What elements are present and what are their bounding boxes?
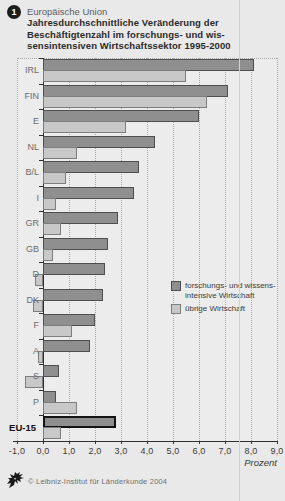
category-label-GB: GB	[0, 244, 39, 254]
x-axis-tick	[95, 441, 96, 444]
legend: forschungs- und wissens- intensive Wirts…	[171, 281, 281, 314]
bar-F-other	[43, 325, 72, 337]
atlas-figure: 1 Europäische Union Jahresdurchschnittli…	[0, 0, 285, 501]
category-label-IRL: IRL	[0, 65, 39, 75]
category-label-E: E	[0, 116, 39, 126]
category-label-B/L: B/L	[0, 167, 39, 177]
bar-GB-other	[43, 249, 53, 261]
chart-title-line: Jahresdurchschnittliche Veränderung der	[27, 17, 231, 29]
legend-item-other-economy: übrige Wirtschaft	[171, 304, 281, 314]
x-axis-tick	[69, 441, 70, 444]
institute-eagle-logo	[6, 471, 25, 493]
bar-B/L-other	[43, 172, 66, 184]
x-axis-tick-label: 9,0	[262, 446, 285, 456]
x-axis-tick	[225, 441, 226, 444]
x-axis-tick	[173, 441, 174, 444]
figure-number-badge: 1	[7, 5, 21, 19]
bar-E-other	[43, 121, 126, 133]
x-axis-unit-label: Prozent	[244, 457, 277, 468]
chart-title-line: Beschäftigtenzahl im forschungs- und wis…	[27, 29, 231, 41]
bar-I-other	[43, 198, 56, 210]
legend-swatch-light	[171, 304, 181, 314]
chart-title: Jahresdurchschnittliche Veränderung der …	[27, 17, 231, 52]
category-label-I: I	[0, 193, 39, 203]
bar-FIN-other	[43, 96, 207, 108]
bar-chart-plot-area	[17, 58, 277, 441]
scan-crease-artifact	[239, 0, 240, 501]
category-axis-tick	[39, 441, 43, 442]
bar-S-research	[43, 365, 59, 377]
x-axis-tick	[199, 441, 200, 444]
category-label-GR: GR	[0, 218, 39, 228]
category-label-F: F	[0, 320, 39, 330]
gridline	[225, 58, 226, 441]
bar-EU-15-other	[43, 427, 61, 439]
legend-item-research-economy: forschungs- und wissens- intensive Wirts…	[171, 281, 281, 300]
x-axis-tick	[121, 441, 122, 444]
gridline	[251, 58, 252, 441]
category-label-NL: NL	[0, 142, 39, 152]
gridline	[199, 58, 200, 441]
region-label: Europäische Union	[27, 6, 107, 17]
bar-I-research	[43, 187, 134, 199]
bar-NL-other	[43, 147, 77, 159]
bar-A-research	[43, 340, 90, 352]
x-axis-tick	[277, 441, 278, 444]
bar-DK-research	[43, 289, 103, 301]
chart-title-line: sensintensiven Wirtschaftssektor 1995-20…	[27, 40, 231, 52]
category-label-P: P	[0, 397, 39, 407]
x-axis-tick	[147, 441, 148, 444]
bar-GR-other	[43, 223, 61, 235]
legend-label: forschungs- und wissens- intensive Wirts…	[185, 281, 276, 300]
bar-IRL-other	[43, 70, 186, 82]
category-label-S: S	[0, 371, 39, 381]
category-label-A: A	[0, 346, 39, 356]
bar-D-research	[43, 263, 105, 275]
category-label-EU-15: EU-15	[0, 422, 36, 433]
category-label-D: D	[0, 269, 39, 279]
x-axis-tick	[43, 441, 44, 444]
copyright-text: © Leibniz-Institut für Länderkunde 2004	[28, 477, 167, 486]
gridline	[277, 58, 278, 441]
bar-P-other	[43, 402, 77, 414]
x-axis-tick	[251, 441, 252, 444]
legend-label: übrige Wirtschaft	[185, 304, 245, 314]
x-axis-tick	[17, 441, 18, 444]
category-label-FIN: FIN	[0, 91, 39, 101]
legend-swatch-dark	[171, 281, 181, 291]
category-label-DK: DK	[0, 295, 39, 305]
